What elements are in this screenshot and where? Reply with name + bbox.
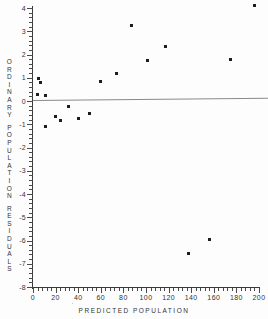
x-tick-label: 20 [51,294,60,301]
y-tick-minor [29,41,33,42]
y-tick-label: 4 [4,5,26,12]
y-tick-major [27,217,33,218]
y-tick-minor [29,278,33,279]
data-point [59,119,62,122]
y-tick-minor [29,134,33,135]
scan-artifact-speck [72,303,73,304]
zero-reference-line [33,98,268,101]
x-tick-minor [164,288,165,291]
x-tick-label: 60 [97,294,106,301]
y-tick-major [27,148,33,149]
y-tick-label: -7 [4,260,26,267]
y-tick-minor [29,203,33,204]
x-tick-minor [250,288,251,291]
x-tick-major [191,288,192,293]
data-point [130,24,133,27]
x-tick-minor [96,288,97,291]
x-tick-minor [155,288,156,291]
x-tick-minor [232,288,233,291]
y-tick-minor [29,208,33,209]
x-tick-label: 180 [230,294,243,301]
y-tick-major [27,8,33,9]
y-tick-minor [29,189,33,190]
scatter-plot-figure: ORDINARY POPULATION RESIDUALS 43210-1-2-… [0,0,268,319]
y-tick-minor [29,259,33,260]
y-tick-minor [29,50,33,51]
y-tick-minor [29,96,33,97]
y-tick-minor [29,106,33,107]
x-tick-minor [218,288,219,291]
y-tick-minor [29,273,33,274]
x-axis-title: PREDICTED POPULATION [0,307,268,314]
data-point [164,45,167,48]
x-tick-minor [245,288,246,291]
y-tick-label: -3 [4,167,26,174]
x-tick-minor [110,288,111,291]
y-tick-minor [29,73,33,74]
y-tick-minor [29,231,33,232]
y-tick-minor [29,59,33,60]
x-tick-label: 100 [140,294,153,301]
x-tick-minor [223,288,224,291]
x-tick-label: 140 [185,294,198,301]
y-tick-minor [29,45,33,46]
y-tick-minor [29,68,33,69]
x-tick-minor [114,288,115,291]
y-tick-major [27,31,33,32]
y-tick-minor [29,115,33,116]
y-axis-title-word-population: POPULATION [4,124,15,200]
x-tick-major [123,288,124,293]
y-tick-label: -2 [4,144,26,151]
y-tick-minor [29,64,33,65]
x-tick-label: 40 [74,294,83,301]
y-tick-minor [29,199,33,200]
y-tick-major [27,194,33,195]
y-tick-minor [29,222,33,223]
x-tick-major [56,288,57,293]
data-point [229,58,232,61]
data-point [208,238,211,241]
y-tick-label: -6 [4,237,26,244]
x-tick-minor [51,288,52,291]
x-tick-label: 160 [207,294,220,301]
data-point [44,125,47,128]
y-tick-minor [29,175,33,176]
x-tick-minor [83,288,84,291]
x-tick-minor [137,288,138,291]
y-tick-minor [29,152,33,153]
x-tick-major [214,288,215,293]
y-tick-minor [29,129,33,130]
y-tick-minor [29,185,33,186]
x-tick-minor [227,288,228,291]
y-tick-minor [29,236,33,237]
y-tick-minor [29,282,33,283]
y-tick-major [27,264,33,265]
x-tick-minor [187,288,188,291]
y-tick-label: 2 [4,51,26,58]
x-tick-major [236,288,237,293]
x-tick-minor [160,288,161,291]
y-tick-minor [29,180,33,181]
x-tick-major [33,288,34,293]
y-tick-minor [29,161,33,162]
data-point [88,112,91,115]
y-tick-minor [29,213,33,214]
y-tick-label: 1 [4,74,26,81]
y-tick-minor [29,157,33,158]
y-tick-minor [29,110,33,111]
x-tick-minor [47,288,48,291]
data-point [99,80,102,83]
x-tick-minor [141,288,142,291]
y-tick-minor [29,87,33,88]
x-tick-minor [182,288,183,291]
y-tick-label: -4 [4,191,26,198]
y-tick-major [27,101,33,102]
x-tick-major [146,288,147,293]
x-tick-minor [60,288,61,291]
y-tick-major [27,171,33,172]
y-tick-major [27,78,33,79]
x-tick-minor [69,288,70,291]
y-tick-minor [29,13,33,14]
y-tick-minor [29,27,33,28]
y-tick-label: 0 [4,98,26,105]
